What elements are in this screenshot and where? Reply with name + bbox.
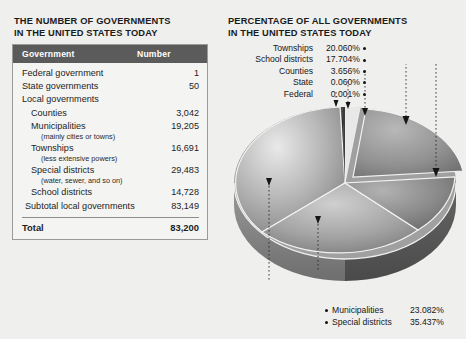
row-value: 14,728 (145, 186, 199, 199)
row-note: (less extensive powers) (22, 154, 199, 163)
row-label: School districts (22, 186, 145, 199)
row-value: 1 (145, 67, 199, 80)
total-divider (22, 217, 199, 218)
column-header-number: Number (137, 49, 199, 59)
legend-value: 20.060% (313, 43, 360, 54)
total-label: Total (22, 221, 145, 234)
row-label: Subtotal local governments (22, 200, 145, 213)
row-note: (water, sewer, and so on) (22, 176, 199, 185)
pie-chart (226, 64, 464, 310)
table-row: Counties 3,042 (22, 107, 199, 120)
row-label: Local governments (22, 93, 145, 106)
pie-chart-svg (226, 64, 464, 310)
table-row: Local governments (22, 93, 199, 106)
row-value: 3,042 (145, 107, 199, 120)
row-value: 19,205 (145, 120, 199, 133)
chart-bottom-legend: Municipalities 23.082% Special districts… (325, 304, 465, 328)
leader-dot-icon (325, 321, 328, 324)
leader-dot-icon (363, 59, 366, 62)
page-root: THE NUMBER OF GOVERNMENTS IN THE UNITED … (0, 0, 466, 339)
table-body: Federal government 1 State governments 5… (13, 63, 207, 239)
row-value: 50 (145, 80, 199, 93)
legend-item: Townships 20.060% (228, 43, 366, 54)
table-header-row: Government Number (13, 45, 207, 63)
leader-dot-icon (325, 309, 328, 312)
row-value: 29,483 (145, 164, 199, 177)
percentage-chart-panel: PERCENTAGE OF ALL GOVERNMENTS IN THE UNI… (228, 16, 464, 326)
legend-label: Municipalities (332, 304, 410, 316)
table-row: School districts 14,728 (22, 186, 199, 199)
legend-item: Municipalities 23.082% (325, 304, 465, 316)
table-panel-title: THE NUMBER OF GOVERNMENTS IN THE UNITED … (14, 16, 208, 39)
table-total-row: Total 83,200 (22, 221, 199, 234)
government-table: Government Number Federal government 1 S… (12, 44, 208, 240)
row-value: 16,691 (145, 142, 199, 155)
arrow-federal (334, 100, 339, 107)
government-count-panel: THE NUMBER OF GOVERNMENTS IN THE UNITED … (12, 16, 208, 240)
chart-panel-title: PERCENTAGE OF ALL GOVERNMENTS IN THE UNI… (228, 16, 464, 39)
table-row: State governments 50 (22, 80, 199, 93)
legend-item: Special districts 35.437% (325, 316, 465, 328)
row-label: Federal government (22, 67, 145, 80)
row-value: 83,149 (145, 200, 199, 213)
legend-label: Townships (273, 43, 313, 54)
legend-label: Special districts (332, 316, 410, 328)
table-row: Subtotal local governments 83,149 (22, 200, 199, 213)
column-header-government: Government (22, 49, 137, 59)
table-row: Federal government 1 (22, 67, 199, 80)
row-label: Counties (22, 107, 145, 120)
leader-dot-icon (363, 47, 366, 50)
legend-value: 35.437% (410, 316, 444, 328)
total-value: 83,200 (145, 221, 199, 234)
row-note: (mainly cities or towns) (22, 132, 199, 141)
legend-value: 23.082% (410, 304, 444, 316)
row-label: State governments (22, 80, 145, 93)
